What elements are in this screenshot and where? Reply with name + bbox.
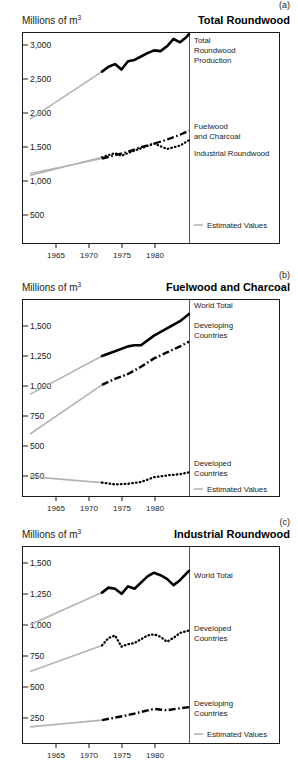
y-tick-label: 500: [30, 441, 44, 451]
legend-label: Estimated Values: [207, 221, 267, 230]
annotation-line: Production: [194, 56, 231, 65]
annotation-industrial-roundwood: Industrial Roundwood: [194, 149, 269, 158]
y-tick-label: 500: [30, 682, 44, 692]
x-tick-label: 1970: [80, 504, 98, 513]
x-tick-label: 1965: [47, 251, 65, 260]
y-axis-caption: Millions of m3: [22, 528, 81, 540]
x-tick-label: 1965: [47, 504, 65, 513]
plot-frame: [23, 547, 280, 744]
annotation-line: Industrial Roundwood: [194, 149, 269, 158]
plot-frame: [23, 33, 280, 244]
plot-frame: [23, 300, 280, 497]
x-tick-label: 1980: [146, 751, 164, 760]
plot-area-b: 1,500 1,250 1,000 750 500 250 1965: [0, 299, 298, 515]
annotation-line: and Charcoal: [194, 132, 241, 141]
y-tick-label: 3,000: [30, 40, 52, 50]
plot-area-a: 3,000 2,500 2,000 1,500 1,000 500 1965: [0, 32, 298, 268]
y-tick-label: 750: [30, 411, 44, 421]
legend-label: Estimated Values: [207, 730, 267, 739]
y-tick-label: 1,500: [30, 558, 52, 568]
panel-industrial-roundwood: (c) Millions of m3 Industrial Roundwood …: [0, 517, 298, 772]
annotation-line: Roundwood: [194, 46, 236, 55]
y-tick-label: 500: [30, 210, 44, 220]
x-tick-label: 1980: [146, 504, 164, 513]
y-tick-label: 750: [30, 651, 44, 661]
y-tick-label: 1,000: [30, 620, 52, 630]
y-axis-caption: Millions of m3: [22, 14, 81, 26]
x-tick-label: 1975: [113, 504, 131, 513]
y-tick-label: 1,250: [30, 589, 52, 599]
legend-label: Estimated Values: [207, 485, 267, 494]
figure-roundwood-production: (a) Millions of m3 Total Roundwood 3,000…: [0, 0, 298, 783]
x-axis-ticks: 1965 1970 1975 1980: [47, 243, 164, 260]
x-tick-label: 1970: [80, 251, 98, 260]
panel-tag-b: (b): [279, 270, 290, 280]
panel-tag-c: (c): [280, 517, 291, 527]
annotation-line: World Total: [194, 301, 233, 310]
panel-tag-a: (a): [279, 0, 290, 10]
annotation-line: World Total: [194, 571, 233, 580]
annotation-developed-countries: Developed Countries: [194, 459, 231, 478]
annotation-line: Fuelwood: [194, 122, 228, 131]
x-tick-label: 1980: [146, 251, 164, 260]
x-tick-label: 1970: [80, 751, 98, 760]
annotation-line: Total: [194, 36, 211, 45]
annotation-line: Countries: [194, 469, 227, 478]
annotation-line: Countries: [194, 634, 227, 643]
y-tick-label: 1,500: [30, 321, 52, 331]
annotation-developed-countries: Developed Countries: [194, 624, 231, 643]
annotation-line: Countries: [194, 331, 227, 340]
y-axis-caption: Millions of m3: [22, 281, 81, 293]
y-tick-label: 1,000: [30, 176, 52, 186]
y-tick-label: 1,500: [30, 142, 52, 152]
y-tick-label: 2,500: [30, 74, 52, 84]
annotation-line: Developing: [194, 699, 233, 708]
annotation-line: Countries: [194, 709, 227, 718]
x-axis-ticks: 1965 1970 1975 1980: [47, 496, 164, 513]
panel-title-c: Industrial Roundwood: [174, 528, 290, 540]
y-tick-label: 1,250: [30, 351, 52, 361]
panel-title-a: Total Roundwood: [198, 14, 290, 26]
panel-total-roundwood: (a) Millions of m3 Total Roundwood 3,000…: [0, 0, 298, 270]
x-tick-label: 1965: [47, 751, 65, 760]
x-tick-label: 1975: [113, 751, 131, 760]
x-axis-ticks: 1965 1970 1975 1980: [47, 743, 164, 760]
y-tick-label: 250: [30, 713, 44, 723]
annotation-developing-countries: Developing Countries: [194, 699, 233, 718]
panel-title-b: Fuelwood and Charcoal: [166, 281, 290, 293]
x-tick-label: 1975: [113, 251, 131, 260]
plot-area-c: 1,500 1,250 1,000 750 500 250 1965: [0, 546, 298, 762]
annotation-world-total: World Total: [194, 301, 233, 310]
annotation-line: Developing: [194, 321, 233, 330]
annotation-line: Developed: [194, 624, 231, 633]
annotation-line: Developed: [194, 459, 231, 468]
annotation-world-total: World Total: [194, 571, 233, 580]
panel-fuelwood-and-charcoal: (b) Millions of m3 Fuelwood and Charcoal…: [0, 270, 298, 517]
annotation-developing-countries: Developing Countries: [194, 321, 233, 340]
